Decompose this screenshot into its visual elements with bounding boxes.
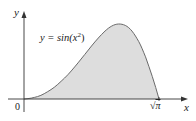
- y-axis-arrow-icon: [22, 11, 27, 18]
- curve-label-suffix: ): [81, 32, 85, 43]
- pi-symbol: π: [156, 100, 161, 111]
- origin-label: 0: [15, 102, 20, 112]
- y-axis-label: y: [14, 7, 19, 18]
- curve-annotation: y = sin(x2): [40, 32, 84, 44]
- curve-label-prefix: y = sin(: [40, 32, 73, 43]
- chart-canvas: [0, 0, 196, 121]
- x-tick-label-sqrt-pi: √π: [150, 101, 161, 111]
- x-axis-label: x: [184, 102, 189, 113]
